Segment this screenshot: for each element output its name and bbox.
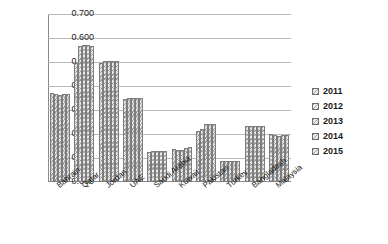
legend-item: 2012: [312, 99, 382, 114]
chart-legend: 20112012201320142015: [312, 84, 382, 159]
x-axis-tick-labels: BahrainQatarJordanUAESaudi ArabiaKuwaitP…: [48, 183, 291, 241]
bar-group: [123, 14, 143, 182]
legend-item: 2015: [312, 144, 382, 159]
bar-group: [196, 14, 216, 182]
bar-group: [269, 14, 289, 182]
legend-swatch-icon: [312, 133, 319, 140]
bar: [115, 61, 119, 182]
legend-label: 2011: [323, 87, 343, 96]
bar-group: [74, 14, 94, 182]
legend-item: 2013: [312, 114, 382, 129]
legend-label: 2013: [323, 117, 343, 126]
legend-label: 2012: [323, 102, 343, 111]
bar-group: [99, 14, 119, 182]
bar-groups: [48, 14, 291, 182]
bar: [90, 46, 94, 182]
bar-group: [245, 14, 265, 182]
legend-item: 2011: [312, 84, 382, 99]
bar-group: [50, 14, 70, 182]
bar-chart: 0.7000.6000.5000.4000.3000.2000.1000.000…: [0, 0, 388, 244]
bar-group: [147, 14, 167, 182]
legend-swatch-icon: [312, 88, 319, 95]
legend-label: 2015: [323, 147, 343, 156]
legend-label: 2014: [323, 132, 343, 141]
legend-swatch-icon: [312, 103, 319, 110]
bar: [66, 94, 70, 182]
legend-swatch-icon: [312, 118, 319, 125]
bar-group: [220, 14, 240, 182]
bar: [139, 98, 143, 182]
legend-swatch-icon: [312, 148, 319, 155]
legend-item: 2014: [312, 129, 382, 144]
